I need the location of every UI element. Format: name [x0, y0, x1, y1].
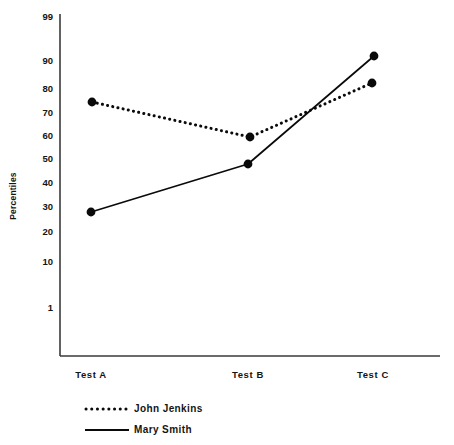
legend-item-mary-smith: Mary Smith — [85, 424, 192, 435]
series-line-john-jenkins — [92, 83, 372, 137]
chart-legend: John Jenkins Mary Smith — [85, 403, 203, 435]
y-axis-tick-labels: 99 90 80 70 60 50 40 30 20 10 1 — [42, 11, 53, 313]
data-point-mary-smith-test-b — [244, 160, 253, 169]
legend-item-john-jenkins: John Jenkins — [86, 403, 203, 414]
y-tick-label: 70 — [42, 107, 53, 118]
y-tick-label: 40 — [42, 177, 53, 188]
legend-label-john-jenkins: John Jenkins — [134, 403, 203, 414]
legend-label-mary-smith: Mary Smith — [134, 424, 192, 435]
y-tick-label: 60 — [42, 130, 53, 141]
y-tick-label: 1 — [48, 302, 54, 313]
chart-canvas: 99 90 80 70 60 50 40 30 20 10 1 Percenti… — [0, 0, 454, 445]
x-axis-category-labels: Test A Test B Test C — [75, 369, 389, 380]
data-point-john-jenkins-test-b — [246, 133, 255, 142]
data-point-john-jenkins-test-c — [368, 79, 377, 88]
y-axis-title: Percentiles — [8, 172, 18, 220]
y-tick-label: 30 — [42, 201, 53, 212]
x-category-label-test-b: Test B — [232, 369, 264, 380]
y-tick-label: 90 — [42, 55, 53, 66]
chart-axes — [60, 14, 440, 356]
y-tick-label: 10 — [42, 256, 53, 267]
data-point-john-jenkins-test-a — [88, 98, 97, 107]
x-category-label-test-a: Test A — [75, 369, 107, 380]
data-point-mary-smith-test-a — [87, 208, 96, 217]
data-point-mary-smith-test-c — [370, 52, 379, 61]
y-tick-label: 80 — [42, 83, 53, 94]
y-tick-label: 20 — [42, 226, 53, 237]
x-category-label-test-c: Test C — [357, 369, 389, 380]
y-tick-label: 50 — [42, 153, 53, 164]
series-john-jenkins — [88, 79, 377, 142]
percentile-line-chart: 99 90 80 70 60 50 40 30 20 10 1 Percenti… — [0, 0, 454, 445]
y-tick-label: 99 — [42, 11, 53, 22]
